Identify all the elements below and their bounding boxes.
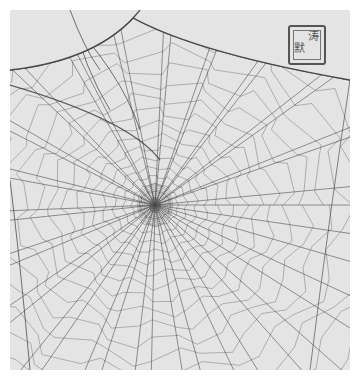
artist-seal: 涛 默: [288, 25, 326, 65]
artwork-canvas: 涛 默: [10, 10, 350, 370]
seal-glyph: 涛: [308, 31, 319, 43]
seal-glyph: 默: [294, 43, 305, 55]
